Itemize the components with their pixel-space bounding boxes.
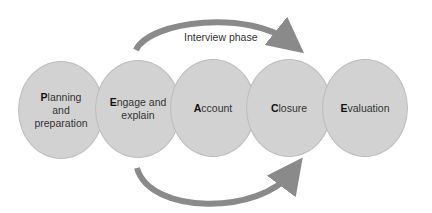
node-text: and xyxy=(52,104,70,116)
node-text: lanning xyxy=(48,91,82,103)
node-evaluation: Evaluation xyxy=(322,59,408,157)
node-text: preparation xyxy=(34,117,87,129)
node-closure: Closure xyxy=(246,59,332,157)
bottom-arrow-icon xyxy=(137,168,292,204)
node-planning: Planningandpreparation xyxy=(18,61,104,159)
node-initial: P xyxy=(41,91,48,103)
node-text: ccount xyxy=(201,102,232,114)
node-text: losure xyxy=(278,102,307,114)
node-account: Account xyxy=(170,59,256,157)
node-initial: E xyxy=(110,96,117,108)
node-engage: Engage andexplain xyxy=(95,60,181,158)
node-text: ngage and xyxy=(117,96,167,108)
interview-phase-label: Interview phase xyxy=(184,31,258,43)
node-text: valuation xyxy=(347,102,389,114)
node-text: explain xyxy=(121,109,154,121)
peace-model-diagram: Interview phase Planningandpreparation E… xyxy=(0,0,432,213)
